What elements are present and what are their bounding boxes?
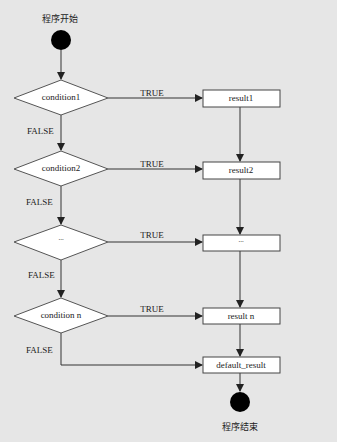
default-result-label: default_result xyxy=(216,360,265,370)
condition-ellipsis-label: ... xyxy=(58,234,63,242)
true-label-1: TRUE xyxy=(140,88,164,98)
start-label: 程序开始 xyxy=(42,12,78,25)
condition-n-label: condition n xyxy=(41,310,82,320)
true-label-3: TRUE xyxy=(140,230,164,240)
condition2-label: condition2 xyxy=(42,163,81,173)
true-label-4: TRUE xyxy=(140,304,164,314)
decision-ellipsis xyxy=(14,225,108,260)
result1-label: result1 xyxy=(229,93,254,103)
flowchart-canvas xyxy=(0,0,337,442)
result-n-label: result n xyxy=(228,311,255,321)
condition1-label: condition1 xyxy=(42,92,81,102)
end-node xyxy=(230,392,250,412)
false-label-1: FALSE xyxy=(27,126,54,136)
result2-label: result2 xyxy=(229,165,254,175)
false-label-2: FALSE xyxy=(26,197,53,207)
result-ellipsis-label: ... xyxy=(238,236,243,244)
true-label-2: TRUE xyxy=(140,159,164,169)
start-node xyxy=(51,30,71,50)
end-label: 程序结束 xyxy=(222,420,258,433)
false-label-4: FALSE xyxy=(26,345,53,355)
false-label-3: FALSE xyxy=(28,270,55,280)
